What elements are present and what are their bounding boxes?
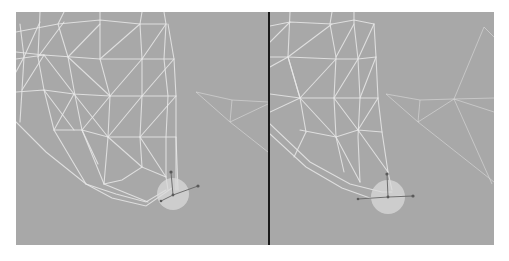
viewport-left[interactable] <box>16 12 268 245</box>
viewport-comparison-figure <box>16 12 494 245</box>
viewport-right[interactable] <box>270 12 494 245</box>
sculpt-brush-cursor-right <box>270 12 494 245</box>
sculpt-brush-cursor-left <box>16 12 268 245</box>
